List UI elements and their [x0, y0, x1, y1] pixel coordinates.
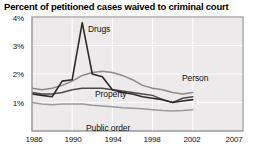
chart-figure: Percent of petitioned cases waived to cr… [0, 0, 254, 153]
series-label-public-order: Public order [86, 123, 130, 133]
x-tick-1990: 1990 [53, 135, 93, 144]
y-tick-2: 2% [2, 70, 24, 79]
series-label-drugs: Drugs [88, 24, 110, 34]
x-tick-1994: 1994 [93, 135, 133, 144]
y-tick-4: 4% [2, 14, 24, 23]
x-tick-2002: 2002 [172, 135, 212, 144]
y-tick-1: 1% [2, 99, 24, 108]
series-label-person: Person [182, 73, 208, 83]
series-label-property: Property [95, 89, 126, 99]
chart-canvas [0, 15, 254, 137]
chart-title: Percent of petitioned cases waived to cr… [4, 1, 252, 13]
x-tick-1986: 1986 [14, 135, 54, 144]
x-tick-2007: 2007 [214, 135, 254, 144]
y-tick-3: 3% [2, 42, 24, 51]
x-tick-1998: 1998 [132, 135, 172, 144]
plot-area: 4% 3% 2% 1% 1986 1990 1994 1998 2002 200… [0, 15, 254, 137]
